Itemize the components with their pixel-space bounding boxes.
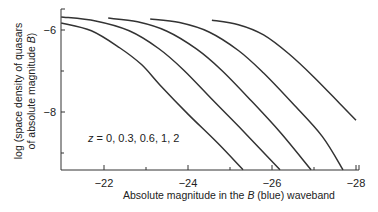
y-tick-label: −8 xyxy=(43,106,56,118)
curve-z0-6 xyxy=(108,18,311,170)
quasar-luminosity-function-chart: −22−24−26−28−6−8 z = 0, 0.3, 0.6, 1, 2 A… xyxy=(0,0,378,212)
labels: z = 0, 0.3, 0.6, 1, 2 Absolute magnitude… xyxy=(12,23,335,201)
curve-z0-3 xyxy=(61,17,280,170)
x-axis-title: Absolute magnitude in the B (blue) waveb… xyxy=(123,189,335,201)
x-tick-label: −26 xyxy=(263,177,282,189)
curve-z0 xyxy=(61,23,243,170)
curves xyxy=(61,17,356,170)
svg-text:log (space density of quasars: log (space density of quasars xyxy=(12,23,24,160)
x-tick-label: −22 xyxy=(95,177,114,189)
y-axis-title: log (space density of quasars of absolut… xyxy=(12,23,37,160)
redshift-values: = 0, 0.3, 0.6, 1, 2 xyxy=(94,132,180,144)
curve-z1 xyxy=(150,19,343,170)
y-tick-label: −6 xyxy=(43,24,56,36)
x-tick-label: −24 xyxy=(179,177,198,189)
svg-text:of absolute magnitude B): of absolute magnitude B) xyxy=(25,33,37,150)
redshift-annotation: z = 0, 0.3, 0.6, 1, 2 xyxy=(87,132,179,144)
curve-z2 xyxy=(212,20,356,120)
axes: −22−24−26−28−6−8 xyxy=(43,9,365,189)
x-tick-label: −28 xyxy=(347,177,366,189)
